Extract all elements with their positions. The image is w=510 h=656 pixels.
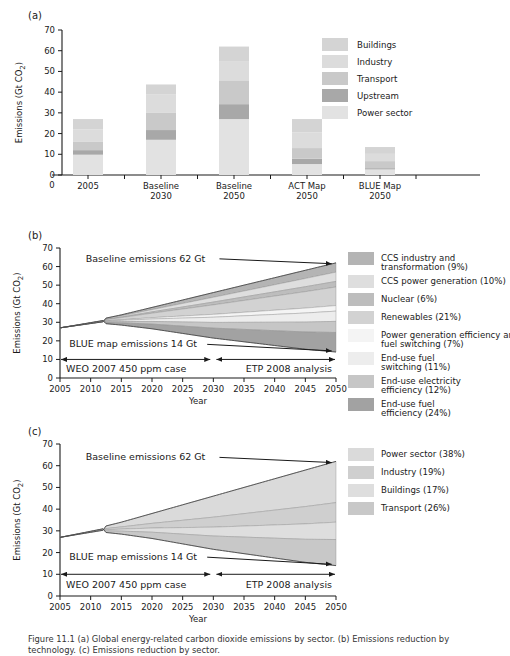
svg-text:Emissions (Gt CO2): Emissions (Gt CO2) (14, 62, 27, 143)
bar-5 (365, 147, 395, 175)
svg-text:Industry: Industry (357, 57, 392, 67)
legend-item: Transport (322, 72, 398, 85)
bar-segment (73, 129, 103, 141)
svg-text:60: 60 (42, 262, 53, 272)
svg-text:50: 50 (42, 482, 53, 492)
bar-3 (219, 47, 249, 175)
legend-item: Upstream (322, 89, 399, 102)
legend-swatch (348, 329, 374, 342)
legend-swatch (348, 252, 374, 265)
legend-swatch (348, 311, 374, 324)
svg-text:Power sector: Power sector (357, 108, 413, 118)
bar-segment (292, 159, 322, 164)
svg-text:10: 10 (44, 149, 55, 159)
svg-b-ylabel: Emissions (Gt CO2) (12, 272, 25, 353)
svg-text:Emissions (Gt CO2): Emissions (Gt CO2) (12, 272, 25, 353)
bar-segment (73, 155, 103, 175)
legend-item: CCS industry andtransformation (9%) (348, 252, 468, 272)
svg-text:2010: 2010 (80, 384, 102, 394)
svg-text:BLUE Map: BLUE Map (359, 181, 401, 191)
bar-segment (73, 150, 103, 155)
bar-segment (73, 141, 103, 150)
svg-text:2025: 2025 (172, 384, 194, 394)
legend-item: End-use electricityefficiency (12%) (348, 375, 461, 395)
svg-text:ACT Map: ACT Map (288, 181, 325, 191)
svg-text:transformation (9%): transformation (9%) (381, 262, 468, 272)
legend-swatch (348, 466, 374, 479)
legend-swatch (348, 275, 374, 288)
panel-a-chart: Emissions (Gt CO2)01020304050607002005Ba… (0, 0, 510, 222)
bar-segment (219, 61, 249, 80)
svg-text:2005: 2005 (49, 384, 71, 394)
bar-segment (365, 168, 395, 169)
svg-text:Baseline: Baseline (143, 181, 179, 191)
svg-text:Power sector (38%): Power sector (38%) (381, 449, 465, 459)
weo-period-label: WEO 2007 450 ppm case (66, 579, 187, 590)
svg-text:efficiency (24%): efficiency (24%) (381, 408, 451, 418)
svg-text:2045: 2045 (295, 602, 317, 612)
legend-swatch (348, 352, 374, 365)
bar-segment (219, 47, 249, 62)
svg-text:70: 70 (42, 439, 53, 449)
svg-text:40: 40 (42, 299, 53, 309)
svg-text:2050: 2050 (296, 191, 318, 201)
bar-segment (365, 147, 395, 154)
bar-segment (292, 164, 322, 175)
svg-text:fuel switching (7%): fuel switching (7%) (381, 339, 464, 349)
weo-period-label: WEO 2007 450 ppm case (66, 363, 187, 374)
svg-text:2030: 2030 (203, 602, 225, 612)
svg-text:2005: 2005 (49, 602, 71, 612)
bar-segment (73, 119, 103, 129)
svg-text:60: 60 (44, 46, 55, 56)
svg-text:2030: 2030 (203, 384, 225, 394)
svg-text:Buildings: Buildings (357, 40, 397, 50)
svg-text:50: 50 (42, 280, 53, 290)
panel-c-chart: Emissions (Gt CO2)0102030405060702005201… (0, 424, 510, 636)
legend-swatch (322, 89, 348, 102)
svg-text:CCS power generation (10%): CCS power generation (10%) (381, 276, 506, 286)
bar-2 (146, 84, 176, 175)
panel-c: (c) Emissions (Gt CO2)010203040506070200… (0, 424, 510, 634)
wedge-group (60, 461, 336, 565)
svg-text:2050: 2050 (325, 602, 347, 612)
bar-segment (219, 104, 249, 119)
legend-item: Power sector (322, 106, 413, 119)
svg-text:2005: 2005 (77, 181, 99, 191)
svg-text:2020: 2020 (141, 384, 163, 394)
svg-text:2050: 2050 (369, 191, 391, 201)
svg-text:20: 20 (42, 548, 53, 558)
svg-text:2040: 2040 (264, 384, 286, 394)
bar-segment (219, 119, 249, 175)
svg-text:Nuclear (6%): Nuclear (6%) (381, 294, 437, 304)
bar-segment (146, 84, 176, 94)
svg-text:Year: Year (188, 614, 208, 624)
svg-text:Industry (19%): Industry (19%) (381, 467, 445, 477)
bar-segment (365, 154, 395, 161)
baseline-annotation: Baseline emissions 62 Gt (86, 451, 206, 462)
legend-item: Power sector (38%) (348, 448, 465, 461)
legend-item: Nuclear (6%) (348, 293, 437, 306)
svg-text:2015: 2015 (111, 602, 133, 612)
svg-text:20: 20 (44, 129, 55, 139)
bar-1 (73, 119, 103, 175)
bar-segment (365, 169, 395, 175)
svg-text:70: 70 (42, 243, 53, 253)
svg-text:40: 40 (44, 87, 55, 97)
legend-swatch (348, 502, 374, 515)
legend-swatch (348, 448, 374, 461)
bar-segment (146, 112, 176, 130)
svg-text:Year: Year (188, 396, 208, 406)
legend-item: CCS power generation (10%) (348, 275, 506, 288)
svg-text:30: 30 (42, 317, 53, 327)
bar-segment (292, 119, 322, 132)
svg-text:20: 20 (42, 336, 53, 346)
panel-a-ylabel: Emissions (Gt CO2) (14, 62, 27, 143)
svg-text:30: 30 (42, 526, 53, 536)
bar-segment (292, 133, 322, 149)
panel-b-chart: Emissions (Gt CO2)0102030405060702005201… (0, 228, 510, 418)
svg-text:Buildings (17%): Buildings (17%) (381, 485, 449, 495)
svg-text:60: 60 (42, 461, 53, 471)
legend-swatch (322, 38, 348, 51)
svg-text:Baseline: Baseline (216, 181, 252, 191)
panel-a: (a) Emissions (Gt CO2)010203040506070020… (0, 0, 510, 222)
